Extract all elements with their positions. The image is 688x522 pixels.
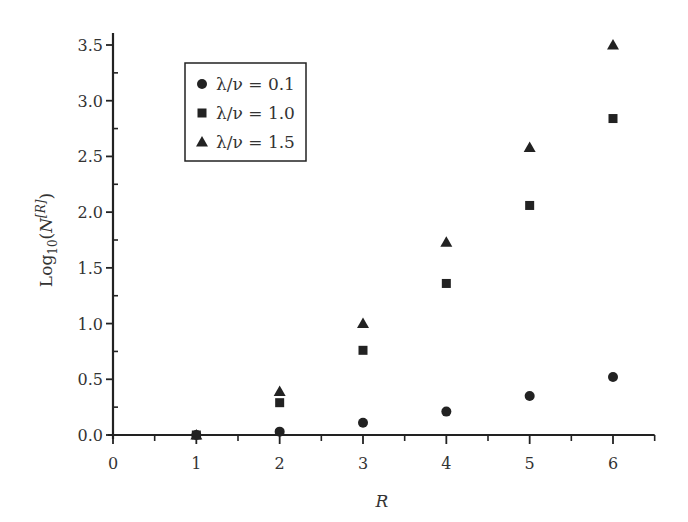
x-tick-label: 4 — [441, 454, 451, 473]
circle-marker — [358, 418, 368, 428]
y-axis-label: Log10(N[R]) — [34, 193, 60, 287]
circle-marker — [441, 407, 451, 417]
legend: λ/ν = 0.1λ/ν = 1.0λ/ν = 1.5 — [185, 63, 306, 161]
y-tick-label: 1.5 — [78, 259, 103, 278]
x-tick-label: 6 — [608, 454, 618, 473]
x-tick-label: 0 — [108, 454, 118, 473]
y-tick-label: 3.5 — [78, 36, 103, 55]
legend-entry-label: λ/ν = 1.5 — [216, 132, 295, 152]
y-tick-label: 1.0 — [78, 315, 103, 334]
x-axis-label: R — [375, 491, 389, 511]
y-axis: 0.00.51.01.52.02.53.03.5 — [78, 33, 118, 445]
circle-marker — [275, 427, 285, 437]
y-tick-label: 2.5 — [78, 147, 103, 166]
y-tick-label: 0.5 — [78, 370, 103, 389]
x-axis: 0123456 — [108, 435, 655, 473]
triangle-marker — [440, 236, 452, 247]
legend-entry-label: λ/ν = 1.0 — [216, 103, 295, 123]
x-tick-label: 5 — [525, 454, 535, 473]
triangle-marker — [607, 39, 619, 50]
y-tick-label: 2.0 — [78, 203, 103, 222]
triangle-marker — [274, 386, 286, 397]
triangle-marker — [357, 318, 369, 329]
legend-circle-icon — [197, 79, 207, 89]
triangle-marker — [524, 142, 536, 153]
square-marker — [442, 279, 451, 288]
square-marker — [525, 201, 534, 210]
circle-marker — [525, 391, 535, 401]
y-tick-label: 3.0 — [78, 92, 103, 111]
square-marker — [609, 114, 618, 123]
scatter-chart: 0.00.51.01.52.02.53.03.5 0123456 R Log10… — [0, 0, 688, 522]
square-marker — [359, 346, 368, 355]
legend-square-icon — [198, 109, 207, 118]
x-tick-label: 3 — [358, 454, 368, 473]
square-marker — [275, 398, 284, 407]
x-tick-label: 1 — [191, 454, 201, 473]
legend-entry-label: λ/ν = 0.1 — [216, 74, 295, 94]
x-tick-label: 2 — [275, 454, 285, 473]
y-tick-label: 0.0 — [78, 426, 103, 445]
circle-marker — [608, 372, 618, 382]
